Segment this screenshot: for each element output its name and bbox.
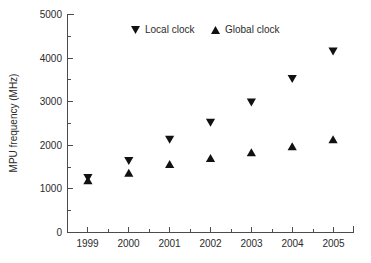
series-global-clock [83,135,337,184]
data-point [247,99,256,107]
x-axis-tick-labels: 1999 2000 2001 2002 2003 2004 2005 [76,238,345,249]
y-tick-label: 0 [56,227,62,238]
x-tick-label: 2003 [240,238,263,249]
x-tick-label: 2004 [281,238,304,249]
x-tick-label: 2001 [158,238,181,249]
y-tick-label: 5000 [40,9,63,20]
scatter-chart: 5000 4000 3000 2000 1000 0 MPU frequency… [0,0,371,263]
x-axis-major-ticks [88,227,334,233]
legend-label-global: Global clock [225,24,280,35]
chart-figure: 5000 4000 3000 2000 1000 0 MPU frequency… [0,0,371,263]
data-point [206,119,215,127]
x-tick-label: 2000 [117,238,140,249]
data-point [165,160,174,168]
triangle-up-icon [211,26,220,34]
y-axis-title: MPU frequency (MHz) [8,74,19,173]
x-tick-label: 2002 [199,238,222,249]
y-tick-label: 2000 [40,140,63,151]
data-point [288,75,297,83]
data-point [165,136,174,144]
y-axis-tick-labels: 5000 4000 3000 2000 1000 0 [40,9,63,238]
x-tick-label: 1999 [76,238,99,249]
data-point [83,176,92,184]
data-point [124,157,133,165]
chart-legend: Local clock Global clock [131,24,280,35]
legend-label-local: Local clock [145,24,195,35]
y-tick-label: 4000 [40,53,63,64]
data-point [288,142,297,150]
y-tick-label: 3000 [40,96,63,107]
data-point [328,48,337,56]
data-point [328,135,337,143]
y-tick-label: 1000 [40,183,63,194]
data-point [124,169,133,177]
data-point [206,154,215,162]
data-point [247,148,256,156]
x-tick-label: 2005 [322,238,345,249]
triangle-down-icon [131,26,140,34]
